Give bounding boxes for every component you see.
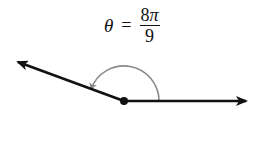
angle-arc bbox=[91, 66, 159, 101]
vertex-point bbox=[120, 97, 128, 105]
angle-diagram bbox=[0, 0, 265, 151]
terminal-side-ray bbox=[18, 62, 124, 101]
